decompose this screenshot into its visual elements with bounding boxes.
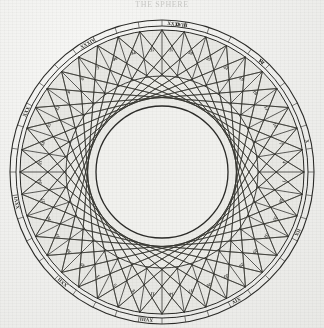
cell-number: 21 bbox=[37, 160, 42, 166]
ring-marker-label: XXX bbox=[22, 105, 31, 117]
inner-envelope-circle bbox=[96, 106, 228, 238]
cell-number: 1 bbox=[281, 180, 286, 183]
cell-number: 11 bbox=[150, 291, 155, 296]
ring-marker-label: X bbox=[304, 139, 310, 144]
ring-marker-label: XXXVIII bbox=[167, 21, 188, 28]
annular-chord-diagram: 3738252219161310741383532292623201714118… bbox=[0, 0, 324, 328]
